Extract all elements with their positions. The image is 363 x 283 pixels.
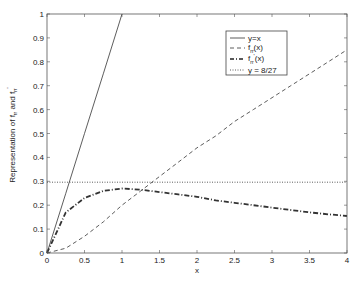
legend-label-8-27: y = 8/27 [248,66,277,75]
y-tick-label: 0.8 [33,58,45,67]
x-axis: 00.511.522.533.54 [45,14,350,265]
y-axis: 00.10.20.30.40.50.60.70.80.91 [33,10,347,258]
x-tick-label: 0 [45,256,50,265]
x-tick-label: 1 [120,256,125,265]
legend-label-y-equals-x: y=x [248,34,261,43]
x-tick-label: 3.5 [304,256,316,265]
series-line [47,50,347,253]
plot-lines [47,14,347,253]
x-axis-label: x [195,266,199,275]
x-tick-label: 3 [270,256,275,265]
y-tick-label: 0.3 [33,177,45,186]
y-tick-label: 0.7 [33,82,45,91]
y-tick-label: 0.5 [33,130,45,139]
series-line [47,14,122,253]
y-tick-label: 0.4 [33,153,45,162]
x-tick-label: 4 [345,256,350,265]
y-tick-label: 0.2 [33,201,45,210]
x-tick-label: 1.5 [154,256,166,265]
y-axis-label: Representation of frr and frr' [6,87,18,182]
y-tick-label: 0 [40,249,45,258]
x-tick-label: 2.5 [229,256,241,265]
series-line [47,189,347,254]
y-tick-label: 1 [40,10,45,19]
y-tick-label: 0.1 [33,225,45,234]
chart: 00.511.522.533.54 00.10.20.30.40.50.60.7… [0,0,363,283]
y-tick-label: 0.9 [33,34,45,43]
x-tick-label: 2 [195,256,200,265]
y-tick-label: 0.6 [33,106,45,115]
plot-frame [47,14,347,253]
legend: y=x frr(x) frr'(x) y = 8/27 [226,31,287,75]
x-tick-label: 0.5 [79,256,91,265]
